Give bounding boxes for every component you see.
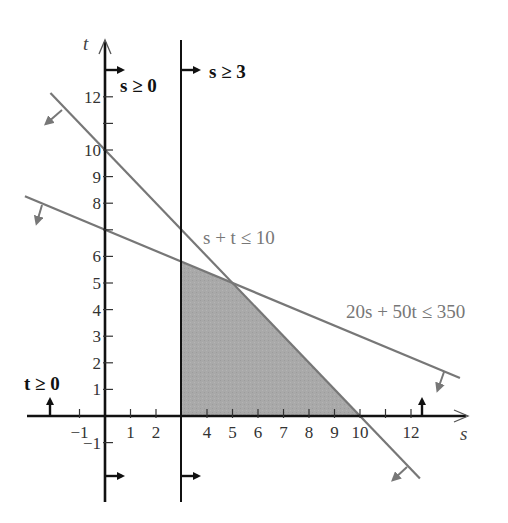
s-tick-label: 1 — [126, 423, 135, 442]
arrow-icon — [438, 372, 444, 389]
s-tick-label: 8 — [305, 423, 314, 442]
arrow-icon — [47, 110, 62, 123]
t-axis-label: t — [83, 33, 89, 54]
s-tick-label: 9 — [330, 423, 339, 442]
s-axis-label: s — [460, 423, 467, 444]
s-tick-label: 4 — [203, 423, 212, 442]
label-s-ge-3: s ≥ 3 — [209, 61, 246, 82]
s-tick-label: 6 — [254, 423, 263, 442]
s-tick-label: 2 — [152, 423, 161, 442]
t-tick-label: 4 — [93, 301, 102, 320]
t-tick-label: 3 — [93, 327, 102, 346]
t-axis-tick-labels: −1123456891012 — [83, 88, 102, 453]
t-tick-label: 9 — [93, 168, 102, 187]
arrow-icon — [394, 467, 407, 479]
t-tick-label: 12 — [84, 88, 101, 107]
s-axis-tick-labels: −1124567891012 — [70, 423, 419, 442]
t-tick-label: 5 — [93, 274, 102, 293]
feasible-region — [182, 262, 361, 416]
label-t-ge-0: t ≥ 0 — [24, 373, 60, 394]
t-tick-label: 2 — [93, 354, 102, 373]
s-tick-label: 7 — [279, 423, 288, 442]
t-tick-label: 10 — [84, 141, 101, 160]
label-cost-constraint: 20s + 50t ≤ 350 — [346, 301, 465, 322]
label-s-ge-0: s ≥ 0 — [120, 75, 157, 96]
t-tick-label: −1 — [83, 434, 101, 453]
t-tick-label: 8 — [93, 194, 102, 213]
arrow-icon — [37, 205, 42, 222]
s-tick-label: 5 — [228, 423, 237, 442]
t-tick-label: 1 — [93, 380, 102, 399]
t-tick-label: 6 — [93, 247, 102, 266]
label-s-plus-t: s + t ≤ 10 — [203, 227, 275, 248]
s-tick-label: 10 — [352, 423, 369, 442]
feasible-region-chart: −1124567891012 −1123456891012 t s s ≥ 0 … — [0, 0, 508, 523]
s-tick-label: 12 — [403, 423, 420, 442]
